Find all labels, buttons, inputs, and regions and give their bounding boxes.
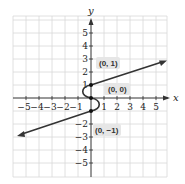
annotation-0-0: (0, 0) — [108, 85, 127, 94]
x-axis-arrow-icon — [163, 96, 170, 101]
svg-text:−3: −3 — [43, 102, 57, 112]
svg-text:1: 1 — [101, 102, 107, 112]
svg-text:4: 4 — [140, 102, 146, 112]
svg-text:3: 3 — [127, 102, 133, 112]
svg-text:3: 3 — [82, 54, 88, 64]
y-axis-arrow-icon — [89, 18, 94, 25]
svg-text:4: 4 — [82, 41, 88, 51]
x-axis-label: x — [173, 92, 179, 103]
annotation-0-1: (0, 1) — [99, 59, 118, 68]
svg-text:2: 2 — [82, 67, 88, 77]
svg-text:−1: −1 — [69, 102, 82, 112]
svg-text:−4: −4 — [75, 145, 89, 155]
x-tick-labels: −5 −4 −3 −2 −1 1 2 3 4 5 — [17, 102, 159, 112]
svg-text:−2: −2 — [56, 102, 69, 112]
svg-text:−3: −3 — [75, 132, 89, 142]
graph: x y −5 −4 −3 −2 −1 1 2 3 4 5 5 4 3 2 1 −… — [0, 0, 185, 184]
svg-text:−5: −5 — [17, 102, 31, 112]
svg-text:2: 2 — [114, 102, 120, 112]
y-axis-label: y — [87, 5, 94, 16]
svg-text:5: 5 — [153, 102, 159, 112]
svg-text:−5: −5 — [75, 158, 89, 168]
lower-ray-arrow-icon — [17, 131, 25, 137]
upper-ray-arrow-icon — [159, 61, 167, 67]
svg-text:5: 5 — [82, 28, 88, 38]
annotation-0-neg1: (0, −1) — [95, 126, 119, 135]
svg-text:−2: −2 — [75, 119, 88, 129]
svg-text:−4: −4 — [30, 102, 44, 112]
